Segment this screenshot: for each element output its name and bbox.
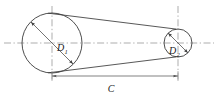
large-pulley-diameter-subscript: 1 bbox=[65, 48, 68, 55]
belt-drive-diagram: D 1 D 2 C bbox=[0, 0, 218, 98]
center-distance-label: C bbox=[108, 83, 115, 94]
belt-drive-figure: D 1 D 2 C bbox=[0, 0, 218, 98]
